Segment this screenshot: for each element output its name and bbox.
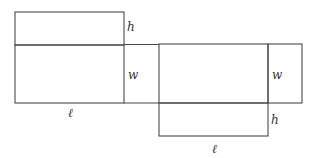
left-main-face [15,45,124,103]
box-net-diagram: h w ℓ w h ℓ [0,0,313,158]
right-bottom-face [159,103,268,136]
left-top-face [15,12,124,45]
label-left-height: h [127,20,135,34]
right-main-face [159,44,268,103]
label-left-length: ℓ [68,106,73,120]
right-net [159,44,302,136]
label-left-width: w [128,68,139,82]
label-right-length: ℓ [212,142,217,156]
left-net [15,12,159,103]
label-right-height: h [271,113,279,127]
label-right-width: w [272,68,283,82]
